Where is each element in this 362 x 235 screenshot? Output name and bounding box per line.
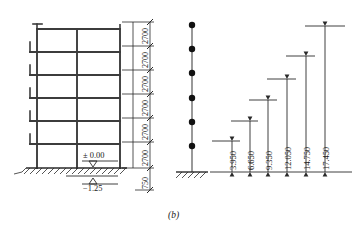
dim-base-segment-label: 750: [142, 177, 150, 189]
ground-level-label: ± 0.00: [83, 152, 104, 160]
mass-node-2: [189, 119, 195, 125]
elevation-label-2: 6.650: [247, 151, 256, 170]
dim-segment-label-6: 2700: [142, 28, 150, 44]
elevation-label-5: 14.750: [303, 147, 312, 170]
figure-caption: (b): [168, 211, 179, 221]
stick-base-hatching: [176, 172, 206, 178]
dim-segment-label-3: 2700: [142, 100, 150, 116]
frame-cantilever-stubs: [30, 24, 42, 144]
structural-elevation-figure: [0, 0, 362, 235]
elevation-label-6: 17.450: [322, 147, 331, 170]
level-marker-zero: [82, 161, 118, 167]
elevation-label-1: 3.950: [229, 151, 238, 170]
ground-edge-left: [14, 168, 26, 174]
stick-model-group: [176, 22, 208, 178]
dim-segment-label-2: 2700: [142, 124, 150, 140]
elevation-arrowheads-base: [230, 172, 328, 177]
dim-segment-label-5: 2700: [142, 52, 150, 68]
mass-node-5: [189, 46, 195, 52]
elevation-label-4: 12.050: [284, 147, 293, 170]
dim-segment-label-1: 2700: [142, 150, 150, 166]
frame-beams: [30, 29, 120, 144]
mass-node-3: [189, 95, 195, 101]
mass-node-6: [189, 22, 195, 28]
mass-node-4: [189, 70, 195, 76]
ground-hatching: [24, 168, 126, 174]
dim-segment-label-4: 2700: [142, 76, 150, 92]
frame-elevation-group: [14, 24, 127, 184]
foundation-level-label: −1.25: [83, 185, 102, 193]
mass-node-1: [189, 143, 195, 149]
elevation-arrowheads-top: [230, 22, 328, 142]
elevation-label-3: 9.350: [265, 151, 274, 170]
